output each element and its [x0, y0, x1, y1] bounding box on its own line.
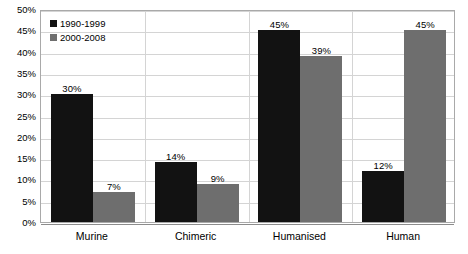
category-separator: [352, 11, 353, 222]
gridline: [41, 11, 454, 12]
gridline: [41, 75, 454, 76]
bar-value-label: 12%: [374, 161, 393, 171]
gridline: [41, 118, 454, 119]
bar: [155, 162, 197, 222]
legend-item: 1990-1999: [50, 17, 105, 30]
bar-value-label: 45%: [270, 20, 289, 30]
bar-chart: 50%45%40%35%30%25%20%15%10%5%0% 30%7%14%…: [0, 0, 468, 254]
bar-value-label: 39%: [312, 46, 331, 56]
y-axis-tick-label: 40%: [0, 48, 36, 58]
y-axis-tick-label: 0%: [0, 218, 36, 228]
bar: [362, 171, 404, 222]
bar-value-label: 7%: [107, 182, 121, 192]
bar: [197, 184, 239, 222]
bar: [93, 192, 135, 222]
gridline: [41, 54, 454, 55]
y-axis: 50%45%40%35%30%25%20%15%10%5%0%: [0, 0, 36, 254]
y-axis-tick-label: 35%: [0, 69, 36, 79]
x-axis-category-label: Humanised: [273, 231, 326, 242]
chart-legend: 1990-19992000-2008: [50, 17, 105, 45]
bar: [404, 30, 446, 222]
bar-value-label: 30%: [62, 84, 81, 94]
y-axis-tick-label: 25%: [0, 112, 36, 122]
bar: [51, 94, 93, 222]
y-axis-tick-label: 50%: [0, 5, 36, 15]
legend-item: 2000-2008: [50, 31, 105, 44]
legend-swatch-gray-icon: [50, 34, 57, 41]
category-separator: [145, 11, 146, 222]
category-separator: [249, 11, 250, 222]
bar: [258, 30, 300, 222]
gridline: [41, 96, 454, 97]
x-axis-category-label: Human: [386, 231, 420, 242]
bar-value-label: 9%: [211, 174, 225, 184]
x-axis-category-label: Murine: [76, 231, 108, 242]
y-axis-tick-label: 45%: [0, 27, 36, 37]
legend-item-label: 1990-1999: [60, 19, 105, 29]
gridline: [41, 224, 454, 225]
y-axis-tick-label: 30%: [0, 90, 36, 100]
gridline: [41, 139, 454, 140]
legend-swatch-black-icon: [50, 20, 57, 27]
bar-value-label: 14%: [166, 152, 185, 162]
bar: [300, 56, 342, 222]
y-axis-tick-label: 5%: [0, 197, 36, 207]
legend-item-label: 2000-2008: [60, 33, 105, 43]
x-axis-category-label: Chimeric: [175, 231, 216, 242]
y-axis-tick-label: 20%: [0, 133, 36, 143]
y-axis-tick-label: 10%: [0, 176, 36, 186]
bar-value-label: 45%: [416, 20, 435, 30]
y-axis-tick-label: 15%: [0, 154, 36, 164]
